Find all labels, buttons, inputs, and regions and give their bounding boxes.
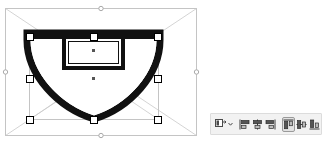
- drawing-canvas[interactable]: [0, 0, 210, 144]
- handle-middle-left[interactable]: [27, 76, 34, 83]
- relative-to-dropdown-icon: [215, 118, 227, 130]
- shield-badge-path[interactable]: [27, 31, 160, 119]
- align-top-icon: [283, 119, 294, 130]
- circle-handle-top[interactable]: [99, 6, 103, 10]
- handle-top-right[interactable]: [155, 34, 162, 41]
- canvas-svg-root: [0, 0, 210, 144]
- toolbar-item-align-left[interactable]: [238, 117, 251, 132]
- handle-bottom-left[interactable]: [27, 117, 34, 124]
- toolbar-item-align-top[interactable]: [282, 117, 295, 132]
- align-center-horizontal-icon: [252, 119, 263, 130]
- circle-handle-bottom[interactable]: [99, 133, 103, 137]
- inner-rectangle-fill: [67, 40, 121, 66]
- toolbar-item-align-right[interactable]: [264, 117, 277, 132]
- center-marker-upper: [92, 49, 95, 52]
- handle-top-left[interactable]: [27, 34, 34, 41]
- align-center-vertical-icon: [296, 119, 307, 130]
- toolbar-item-align-center-horizontal[interactable]: [251, 117, 264, 132]
- align-right-icon: [265, 119, 276, 130]
- toolbar-item-relative-to[interactable]: [214, 117, 233, 132]
- align-left-icon: [239, 119, 250, 130]
- circle-handle-right[interactable]: [194, 70, 198, 74]
- handle-bottom-center[interactable]: [91, 117, 98, 124]
- chevron-down-icon: [228, 121, 233, 127]
- handle-bottom-right[interactable]: [155, 117, 162, 124]
- center-marker-lower: [92, 77, 95, 80]
- toolbar-item-align-center-vertical[interactable]: [295, 117, 308, 132]
- handle-middle-right[interactable]: [155, 76, 162, 83]
- align-and-distribute-toolbar[interactable]: [210, 113, 322, 135]
- align-bottom-icon: [309, 119, 320, 130]
- toolbar-item-align-bottom[interactable]: [308, 117, 321, 132]
- handle-top-center[interactable]: [91, 34, 98, 41]
- circle-handle-left[interactable]: [3, 70, 7, 74]
